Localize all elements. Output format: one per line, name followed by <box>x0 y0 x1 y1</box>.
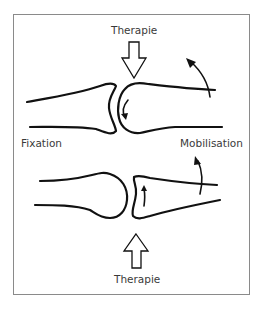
glide-arrowhead-up-icon <box>141 185 147 191</box>
therapy-label-top: Therapie <box>111 25 157 36</box>
fixed-bone-bottom <box>35 173 127 218</box>
therapy-label-bottom: Therapie <box>114 274 160 285</box>
glide-arrowhead-down-icon <box>121 113 128 120</box>
glide-arrow-bottom <box>144 189 145 206</box>
mobilised-bone-top <box>118 83 222 133</box>
mobilised-bone-bottom <box>132 176 220 218</box>
joint-diagram <box>0 0 262 309</box>
mobilisation-label: Mobilisation <box>180 138 243 149</box>
fixed-bone-top <box>27 84 116 134</box>
rotation-arrow-bottom <box>198 161 202 194</box>
rotation-arrowhead-bottom-icon <box>194 156 201 165</box>
therapy-force-arrow-down-icon <box>122 42 146 78</box>
rotation-arrow-top <box>191 62 210 97</box>
rotation-arrowhead-top-icon <box>186 58 196 68</box>
therapy-force-arrow-up-icon <box>124 234 148 268</box>
fixation-label: Fixation <box>21 138 62 149</box>
